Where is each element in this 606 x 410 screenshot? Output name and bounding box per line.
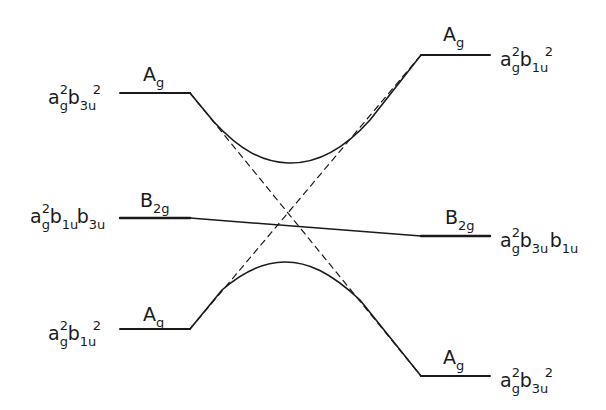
b2g-correlation-line	[190, 218, 421, 236]
right-top-symmetry-label: Ag	[443, 25, 464, 44]
orbital-subscript: 1u	[562, 242, 579, 255]
orbital-subscript: 3u	[532, 242, 549, 255]
orbital-b: b	[50, 205, 62, 227]
left-top-configuration: a2gb23u	[48, 88, 98, 107]
orbital-b: b	[520, 229, 532, 251]
right-middle-configuration: a2gb3ub1u	[500, 231, 577, 250]
orbital-a: a	[48, 322, 60, 344]
left-bottom-symmetry-label: Ag	[143, 305, 164, 324]
symmetry-base: A	[443, 23, 456, 45]
orbital-subscript: g	[60, 99, 68, 112]
orbital-b: b	[520, 369, 532, 391]
symmetry-base: A	[143, 63, 156, 85]
right-top-configuration: a2gb21u	[500, 50, 550, 69]
orbital-b: b	[520, 48, 532, 70]
symmetry-subscript: g	[156, 315, 164, 330]
orbital-subscript: 1u	[62, 218, 79, 231]
left-top-symmetry-label: Ag	[143, 65, 164, 84]
right-bottom-symmetry-label: Ag	[443, 348, 464, 367]
symmetry-subscript: 2g	[153, 201, 170, 216]
occupation-superscript: 2	[512, 226, 520, 239]
occupation-superscript: 2	[545, 45, 553, 58]
occupation-superscript: 2	[60, 83, 68, 96]
orbital-subscript: 1u	[532, 61, 549, 74]
occupation-superscript: 2	[512, 45, 520, 58]
orbital-subscript: g	[42, 218, 50, 231]
orbital-a: a	[500, 229, 512, 251]
symmetry-subscript: g	[456, 358, 464, 373]
occupation-superscript: 2	[93, 319, 101, 332]
orbital-b: b	[68, 322, 80, 344]
lower-ag-curve	[190, 262, 421, 376]
right-middle-symmetry-label: B2g	[445, 208, 475, 227]
occupation-superscript: 2	[545, 366, 553, 379]
symmetry-base: B	[445, 206, 458, 228]
occupation-superscript: 2	[60, 319, 68, 332]
right-bottom-configuration: a2gb23u	[500, 371, 550, 390]
orbital-b: b	[68, 86, 80, 108]
orbital-b: b	[77, 205, 89, 227]
symmetry-base: A	[443, 346, 456, 368]
occupation-superscript: 2	[512, 366, 520, 379]
orbital-subscript: g	[60, 335, 68, 348]
orbital-a: a	[48, 86, 60, 108]
orbital-subscript: g	[512, 61, 520, 74]
orbital-subscript: 1u	[80, 335, 97, 348]
orbital-subscript: 3u	[532, 382, 549, 395]
symmetry-subscript: 2g	[458, 218, 475, 233]
symmetry-subscript: g	[156, 75, 164, 90]
orbital-a: a	[30, 205, 42, 227]
occupation-superscript: 2	[42, 202, 50, 215]
orbital-subscript: 3u	[89, 218, 106, 231]
orbital-a: a	[500, 369, 512, 391]
occupation-superscript: 2	[93, 83, 101, 96]
orbital-b: b	[550, 229, 562, 251]
correlation-diagram: a2gb23u a2gb1ub3u a2gb21u Ag B2g Ag Ag B…	[0, 0, 606, 410]
left-middle-symmetry-label: B2g	[140, 191, 170, 210]
left-bottom-configuration: a2gb21u	[48, 324, 98, 343]
symmetry-subscript: g	[456, 35, 464, 50]
orbital-subscript: 3u	[80, 99, 97, 112]
orbital-subscript: g	[512, 382, 520, 395]
orbital-a: a	[500, 48, 512, 70]
orbital-subscript: g	[512, 242, 520, 255]
symmetry-base: A	[143, 303, 156, 325]
upper-ag-curve	[190, 55, 421, 163]
left-middle-configuration: a2gb1ub3u	[30, 207, 107, 226]
symmetry-base: B	[140, 189, 153, 211]
